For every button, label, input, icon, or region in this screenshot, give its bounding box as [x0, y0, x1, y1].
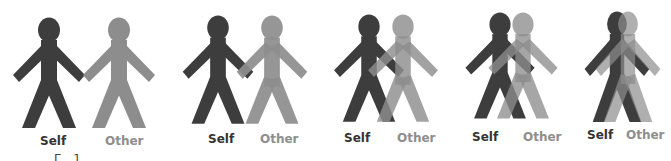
pair-1 [13, 18, 155, 129]
self-label: Self [587, 128, 613, 142]
other-label: Other [105, 134, 144, 148]
other-figure-icon [237, 16, 308, 124]
self-figure-icon [13, 18, 85, 129]
self-label: Self [344, 131, 370, 145]
pair-4 [465, 13, 557, 119]
other-label: Other [397, 131, 436, 145]
self-other-overlap-diagram: Self Other Self Other Self Other Self Ot… [0, 0, 671, 161]
self-label: Self [208, 132, 234, 146]
self-label: Self [472, 130, 498, 144]
pair-3 [334, 15, 438, 122]
figure-canvas [0, 0, 671, 161]
other-figure-icon [83, 18, 155, 129]
self-label: Self [40, 134, 66, 148]
other-label: Other [260, 132, 299, 146]
pair-2 [183, 16, 308, 124]
other-label: Other [523, 130, 562, 144]
pair-5 [585, 12, 661, 123]
clipped-caption: Г 1 [54, 153, 85, 161]
other-label: Other [626, 128, 665, 142]
